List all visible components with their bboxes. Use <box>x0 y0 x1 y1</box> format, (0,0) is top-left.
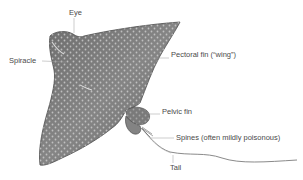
tail-label: Tail <box>170 164 181 172</box>
eagle-ray-diagram: Eye Spiracle Pectoral fin (“wing”) Pelvi… <box>0 0 303 180</box>
ray-illustration <box>0 0 303 180</box>
pelvic-fin-label: Pelvic fin <box>162 108 192 116</box>
spines-label: Spines (often mildly poisonous) <box>176 134 280 142</box>
spiracle-label: Spiracle <box>9 57 36 65</box>
pectoral-fin-label: Pectoral fin (“wing”) <box>171 51 236 59</box>
eye-label: Eye <box>69 9 82 17</box>
